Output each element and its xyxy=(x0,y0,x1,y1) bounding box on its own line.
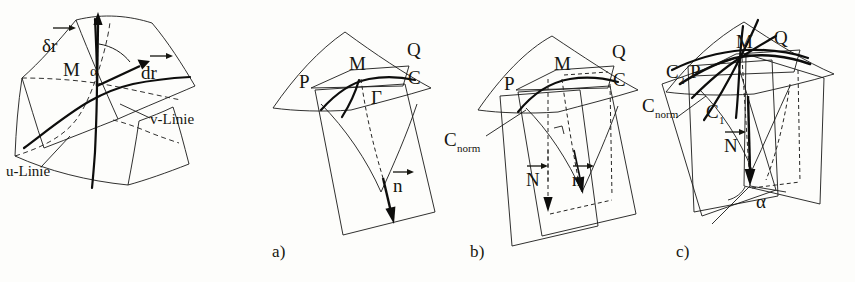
panel-surface-patch: δr dr M α u-Linie v-Linie xyxy=(0,0,250,282)
caption-c-text: c) xyxy=(676,242,690,261)
label-point-M: M xyxy=(736,31,753,52)
label-vector-n: n xyxy=(393,169,414,196)
vector-N-arrow xyxy=(543,150,552,212)
label-c-norm-text: C xyxy=(642,95,655,116)
label-c-norm-text: C xyxy=(444,129,457,150)
label-point-P: P xyxy=(690,61,701,82)
label-point-P: P xyxy=(299,71,310,92)
label-point-Q: Q xyxy=(774,27,788,48)
label-point-M: M xyxy=(349,53,366,74)
label-vector-N: N xyxy=(526,163,548,190)
label-point-M: M xyxy=(554,53,571,74)
label-c1-text: C xyxy=(706,101,719,122)
caption-c: c) xyxy=(676,242,690,262)
label-c-norm: C norm xyxy=(642,95,679,120)
figure-root: δr dr M α u-Linie v-Linie xyxy=(0,0,855,282)
label-vector-N-text: N xyxy=(724,135,738,156)
label-angle-alpha: α xyxy=(90,63,98,79)
label-c-norm-subscript: norm xyxy=(655,108,679,120)
panel-b: P M Q C C norm N n xyxy=(430,0,650,282)
label-c-norm-subscript: norm xyxy=(457,142,481,154)
label-point-C: C xyxy=(408,67,421,88)
label-point-C: C xyxy=(613,69,626,90)
label-curve-gamma: Γ xyxy=(371,87,382,108)
caption-a: a) xyxy=(272,242,286,262)
panel-c: M Q P C 2 C 1 C norm N α xyxy=(640,0,855,282)
label-vector-N: N xyxy=(724,129,746,156)
label-c1: C 1 xyxy=(706,101,725,126)
label-point-M: M xyxy=(63,59,80,80)
label-c-norm: C norm xyxy=(444,129,481,154)
label-dr-text: dr xyxy=(141,62,158,83)
label-point-P: P xyxy=(504,73,515,94)
label-angle-alpha: α xyxy=(756,191,766,212)
caption-b-text: b) xyxy=(470,242,485,261)
label-u-line: u-Linie xyxy=(6,163,50,179)
label-vector-n-text: n xyxy=(393,175,403,196)
label-c1-subscript: 1 xyxy=(719,114,725,126)
vector-N-arrow xyxy=(745,96,756,186)
label-c2-subscript: 2 xyxy=(679,74,685,86)
label-vector-n-text: n xyxy=(572,169,582,190)
caption-a-text: a) xyxy=(272,242,286,261)
panel-a: P M Q C Γ n xyxy=(245,0,445,282)
caption-b: b) xyxy=(470,242,485,262)
label-vector-N-text: N xyxy=(526,169,540,190)
label-v-line: v-Linie xyxy=(150,111,194,127)
label-point-Q: Q xyxy=(612,41,626,62)
label-c2-text: C xyxy=(666,61,679,82)
label-delta-r-text: δr xyxy=(42,35,58,56)
label-point-Q: Q xyxy=(407,39,421,60)
